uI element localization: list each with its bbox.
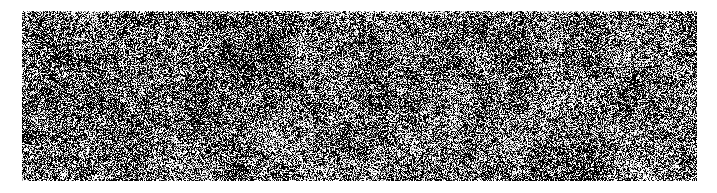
image-canvas: High-contrast black and white random gra… [0, 0, 717, 193]
noise-texture-canvas [22, 11, 697, 181]
noise-texture-region [22, 11, 697, 181]
